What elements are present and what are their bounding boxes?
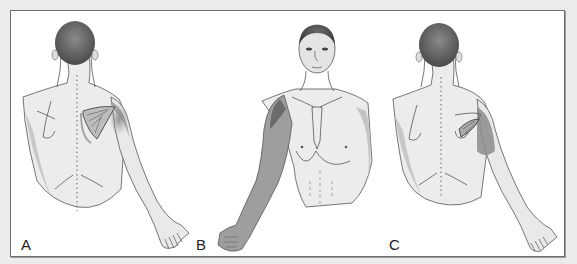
panel-b: B (196, 11, 381, 256)
panel-c: C (381, 11, 566, 256)
figure-frame: A (10, 10, 565, 257)
panel-label-b: B (196, 237, 206, 252)
posterior-body-illustration-a (11, 11, 196, 258)
panel-label-a: A (21, 237, 31, 252)
posterior-body-illustration-c (381, 11, 566, 258)
panel-label-c: C (389, 237, 400, 252)
panel-a: A (11, 11, 196, 256)
anterior-body-illustration-b (196, 11, 381, 258)
